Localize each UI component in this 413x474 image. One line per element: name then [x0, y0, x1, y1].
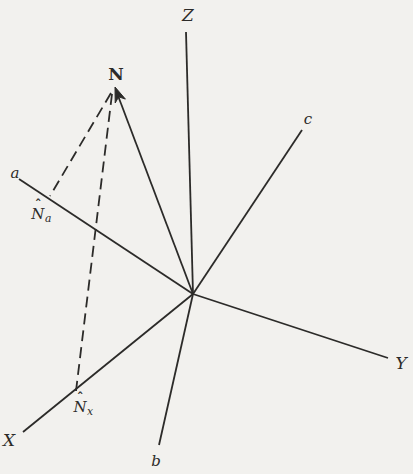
vector-label-n: N — [108, 66, 124, 83]
axis-label-b: b — [151, 454, 161, 469]
axis-label-c: c — [304, 112, 312, 127]
axis-label-x: X — [3, 432, 15, 449]
projection-label-n-hat-x: ˆNx — [73, 400, 92, 415]
circumflex-accent: ˆ — [77, 392, 83, 405]
vector-projection-diagram: Z N c a Y X b ˆNa ˆNx — [0, 0, 413, 474]
axis-label-y: Y — [395, 355, 406, 372]
c-axis-line — [193, 130, 302, 294]
a-axis-line — [19, 179, 193, 294]
projection-label-n-hat-a: ˆNa — [31, 207, 51, 222]
n-vector-line — [117, 93, 193, 294]
z-axis-line — [186, 32, 193, 294]
n-hat-a-subscript: a — [45, 212, 51, 225]
circumflex-accent: ˆ — [35, 199, 41, 212]
axis-label-z: Z — [182, 7, 194, 24]
projection-n-to-x — [76, 94, 112, 391]
n-hat-a-letter: ˆN — [31, 207, 44, 222]
n-hat-x-letter: ˆN — [73, 400, 86, 415]
axis-label-a: a — [11, 166, 20, 181]
n-hat-x-subscript: x — [87, 405, 93, 418]
diagram-canvas — [0, 0, 413, 474]
y-axis-line — [193, 294, 388, 358]
